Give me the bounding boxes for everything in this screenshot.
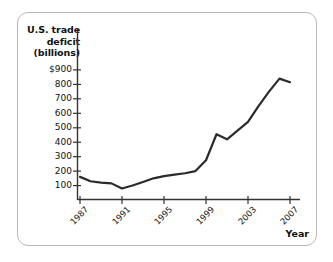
data-series-line xyxy=(80,79,290,189)
plot-area xyxy=(0,0,333,262)
chart-figure: U.S. trade deficit (billions) $900 800 7… xyxy=(0,0,333,262)
